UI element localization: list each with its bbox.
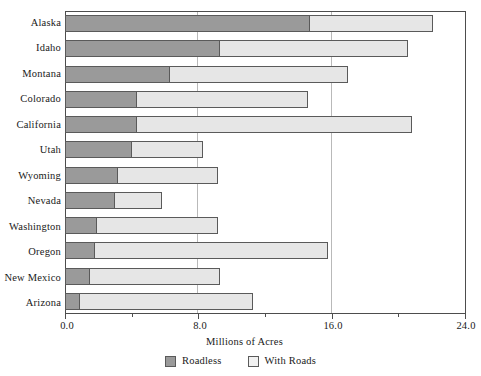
bar-segment-roadless[interactable] bbox=[65, 141, 132, 158]
x-tick-minor-12 bbox=[265, 314, 266, 317]
y-label-new-mexico: New Mexico bbox=[0, 272, 61, 284]
x-axis-title-wrap: Millions of Acres bbox=[0, 336, 481, 347]
bar-segment-with-roads[interactable] bbox=[137, 91, 309, 108]
x-tick-minor-20 bbox=[398, 314, 399, 317]
y-label-colorado: Colorado bbox=[0, 93, 61, 105]
bar-segment-roadless[interactable] bbox=[65, 268, 90, 285]
bar-row[interactable] bbox=[65, 167, 218, 184]
y-label-utah: Utah bbox=[0, 144, 61, 156]
bar-segment-with-roads[interactable] bbox=[132, 141, 204, 158]
y-label-nevada: Nevada bbox=[0, 195, 61, 207]
x-tick-label-16: 16.0 bbox=[323, 319, 342, 332]
bar-segment-with-roads[interactable] bbox=[170, 66, 348, 83]
bar-row[interactable] bbox=[65, 91, 308, 108]
bars-layer bbox=[65, 11, 466, 314]
bar-segment-roadless[interactable] bbox=[65, 66, 170, 83]
legend: Roadless With Roads bbox=[0, 355, 481, 367]
bar-segment-with-roads[interactable] bbox=[90, 268, 220, 285]
x-tick-label-0: 0.0 bbox=[60, 319, 74, 332]
y-label-idaho: Idaho bbox=[0, 42, 61, 54]
y-label-alaska: Alaska bbox=[0, 17, 61, 29]
x-tick-label-24: 24.0 bbox=[456, 319, 475, 332]
y-label-wyoming: Wyoming bbox=[0, 170, 61, 182]
bar-row[interactable] bbox=[65, 15, 433, 32]
bar-segment-roadless[interactable] bbox=[65, 192, 115, 209]
bar-segment-roadless[interactable] bbox=[65, 91, 137, 108]
bar-row[interactable] bbox=[65, 242, 328, 259]
bar-segment-with-roads[interactable] bbox=[115, 192, 162, 209]
bar-segment-with-roads[interactable] bbox=[80, 293, 253, 310]
bar-segment-roadless[interactable] bbox=[65, 116, 137, 133]
legend-label-roadless: Roadless bbox=[182, 355, 222, 367]
bar-segment-with-roads[interactable] bbox=[95, 242, 328, 259]
bar-segment-with-roads[interactable] bbox=[220, 40, 408, 57]
bar-segment-with-roads[interactable] bbox=[118, 167, 218, 184]
bar-row[interactable] bbox=[65, 141, 203, 158]
bar-row[interactable] bbox=[65, 268, 220, 285]
y-label-arizona: Arizona bbox=[0, 297, 61, 309]
legend-swatch-roadless-icon bbox=[165, 356, 176, 367]
legend-entry-roadless[interactable]: Roadless bbox=[165, 355, 222, 367]
bar-segment-with-roads[interactable] bbox=[97, 217, 219, 234]
bar-segment-roadless[interactable] bbox=[65, 15, 310, 32]
y-axis-labels: Alaska Idaho Montana Colorado California… bbox=[0, 11, 61, 314]
bar-row[interactable] bbox=[65, 192, 162, 209]
legend-swatch-with-roads-icon bbox=[248, 356, 259, 367]
y-label-oregon: Oregon bbox=[0, 246, 61, 258]
bar-row[interactable] bbox=[65, 40, 408, 57]
legend-label-with-roads: With Roads bbox=[265, 355, 316, 367]
bar-row[interactable] bbox=[65, 293, 253, 310]
bar-segment-roadless[interactable] bbox=[65, 242, 95, 259]
bar-segment-roadless[interactable] bbox=[65, 40, 220, 57]
y-label-montana: Montana bbox=[0, 68, 61, 80]
x-tick-label-8: 8.0 bbox=[193, 319, 207, 332]
stacked-bar-chart: Alaska Idaho Montana Colorado California… bbox=[0, 0, 481, 376]
bar-row[interactable] bbox=[65, 217, 218, 234]
bar-row[interactable] bbox=[65, 66, 348, 83]
x-axis-tick-labels: 0.0 8.0 16.0 24.0 bbox=[0, 319, 481, 333]
legend-entry-with-roads[interactable]: With Roads bbox=[248, 355, 316, 367]
bar-segment-with-roads[interactable] bbox=[310, 15, 433, 32]
bar-segment-roadless[interactable] bbox=[65, 217, 97, 234]
bar-row[interactable] bbox=[65, 116, 412, 133]
bar-segment-roadless[interactable] bbox=[65, 167, 118, 184]
bar-segment-with-roads[interactable] bbox=[137, 116, 412, 133]
y-label-washington: Washington bbox=[0, 221, 61, 233]
x-axis-title: Millions of Acres bbox=[206, 336, 283, 347]
x-tick-minor-4 bbox=[132, 314, 133, 317]
bar-segment-roadless[interactable] bbox=[65, 293, 80, 310]
y-label-california: California bbox=[0, 119, 61, 131]
